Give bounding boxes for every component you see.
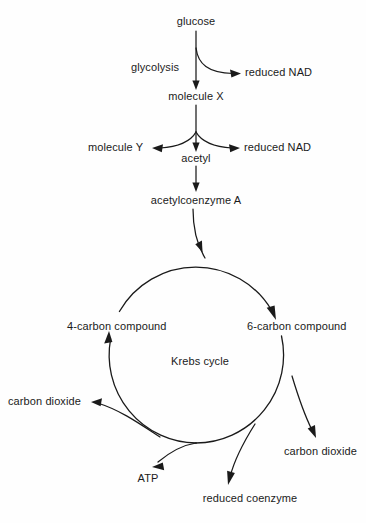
label-glucose: glucose [177, 15, 216, 28]
label-carbon-dioxide-left: carbon dioxide [8, 395, 81, 408]
arrow-fork-to-molecule-y [160, 132, 196, 148]
arrowhead-reduced-nad-1 [230, 70, 241, 78]
arrow-glycolysis-to-reduced-nad [196, 48, 233, 74]
label-six-carbon-compound: 6-carbon compound [247, 320, 347, 333]
arrowhead-to-six-carbon [267, 305, 276, 320]
arrowhead-acetylcoenzyme-a [192, 183, 199, 193]
cycle-arc-right-bottom [196, 336, 284, 443]
cycle-arc-top-right [119, 267, 272, 311]
label-krebs-cycle: Krebs cycle [171, 355, 229, 368]
label-reduced-nad-link: reduced NAD [244, 141, 311, 154]
arrowhead-atp [152, 462, 164, 470]
arrow-cycle-to-carbon-dioxide-right [292, 376, 312, 430]
arrowhead-molecule-y [152, 144, 163, 152]
label-glycolysis: glycolysis [131, 61, 179, 74]
arrow-cycle-to-reduced-coenzyme [230, 424, 255, 477]
label-molecule-y: molecule Y [88, 141, 143, 154]
arrowhead-reduced-coenzyme [227, 471, 235, 485]
arrow-cycle-to-carbon-dioxide-left [99, 404, 160, 438]
label-atp: ATP [138, 472, 159, 485]
arrow-cycle-to-atp [158, 443, 196, 462]
arrowhead-into-cycle [195, 241, 202, 253]
label-reduced-nad-glycolysis: reduced NAD [245, 66, 312, 79]
label-molecule-x: molecule X [168, 90, 223, 103]
arrowhead-carbon-dioxide-right [308, 425, 316, 438]
label-reduced-coenzyme: reduced coenzyme [203, 492, 298, 505]
arrow-acetylcoenzyme-a-to-cycle [193, 209, 205, 258]
label-four-carbon-compound: 4-carbon compound [67, 320, 167, 333]
arrowhead-carbon-dioxide-left [91, 398, 102, 406]
arrowhead-reduced-nad-2 [229, 144, 240, 152]
arrow-fork-to-reduced-nad-2 [196, 132, 232, 148]
label-carbon-dioxide-right: carbon dioxide [284, 445, 357, 458]
arrowhead-glucose-to-molecule-x [192, 81, 199, 91]
label-acetylcoenzyme-a: acetylcoenzyme A [151, 194, 241, 207]
respiration-diagram: glucose glycolysis reduced NAD molecule … [0, 0, 366, 523]
arrowhead-acetyl [192, 143, 199, 153]
label-acetyl: acetyl [181, 152, 210, 165]
